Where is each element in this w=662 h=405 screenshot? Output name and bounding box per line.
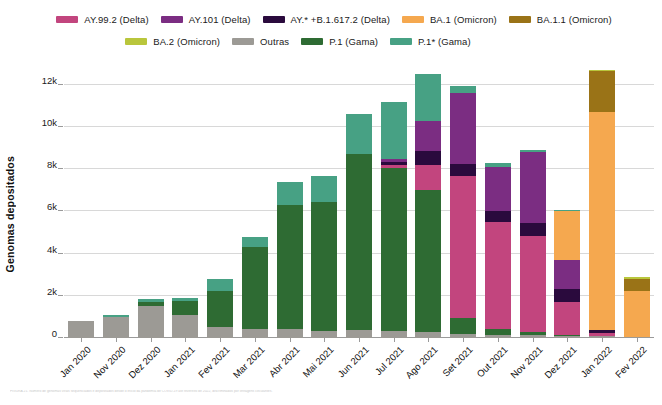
x-tick-mark bbox=[255, 338, 256, 342]
bar-segment bbox=[138, 305, 164, 338]
legend-item-p1star-gama[interactable]: P.1* (Gama) bbox=[390, 36, 471, 47]
legend-swatch-ba2-omicron bbox=[125, 38, 147, 45]
legend-swatch-ba1-omicron bbox=[402, 16, 424, 23]
legend-swatch-ba11-omicron bbox=[509, 16, 531, 23]
bar-mar-2021[interactable] bbox=[242, 237, 268, 338]
plot-area: Genomas depositados 02k4k6k8k10k12k Jan … bbox=[0, 56, 662, 346]
legend-label-ba2-omicron: BA.2 (Omicron) bbox=[153, 36, 220, 47]
bar-segment bbox=[520, 151, 546, 224]
y-tick-mark-8k bbox=[58, 168, 63, 169]
bar-segment bbox=[485, 166, 511, 211]
bar-nov-2021[interactable] bbox=[520, 150, 546, 338]
y-tick-label-12k: 12k bbox=[42, 74, 57, 85]
x-tick-mark bbox=[463, 338, 464, 342]
legend-swatch-outras bbox=[232, 38, 254, 45]
legend-label-ba11-omicron: BA.1.1 (Omicron) bbox=[537, 14, 612, 25]
bar-segment bbox=[172, 300, 198, 315]
bar-jun-2021[interactable] bbox=[346, 114, 372, 338]
legend-item-ay101-delta[interactable]: AY.101 (Delta) bbox=[161, 14, 251, 25]
x-tick-mark bbox=[220, 338, 221, 342]
bar-segment bbox=[485, 162, 511, 167]
legend-item-ba2-omicron[interactable]: BA.2 (Omicron) bbox=[125, 36, 220, 47]
bar-segment bbox=[103, 314, 129, 318]
x-axis: Jan 2020Nov 2020Dez 2020Jan 2021Fev 2021… bbox=[64, 338, 654, 398]
x-tick-mark bbox=[185, 338, 186, 342]
bar-segment bbox=[485, 221, 511, 329]
bar-segment bbox=[554, 259, 580, 290]
bar-segment bbox=[485, 210, 511, 222]
bar-segment bbox=[381, 101, 407, 159]
bar-segment bbox=[520, 222, 546, 236]
legend-item-p1-gama[interactable]: P.1 (Gama) bbox=[301, 36, 378, 47]
bar-jul-2021[interactable] bbox=[381, 102, 407, 338]
bar-segment bbox=[242, 328, 268, 338]
legend-item-ay-b16172-delta[interactable]: AY.* +B.1.617.2 (Delta) bbox=[263, 14, 390, 25]
bar-segment bbox=[589, 70, 615, 112]
bar-ago-2021[interactable] bbox=[415, 73, 441, 338]
bar-segment bbox=[277, 328, 303, 338]
bar-segment bbox=[485, 328, 511, 336]
bar-segment bbox=[172, 297, 198, 301]
x-tick-mark bbox=[428, 338, 429, 342]
bar-dez-2020[interactable] bbox=[138, 299, 164, 338]
bar-segment bbox=[450, 163, 476, 177]
figure-caption: FIGURA 21. Número de genomas virais sequ… bbox=[10, 390, 655, 394]
y-tick-label-2k: 2k bbox=[47, 285, 57, 296]
legend-label-outras: Outras bbox=[260, 36, 289, 47]
bar-segment bbox=[450, 317, 476, 335]
bar-segment bbox=[311, 201, 337, 331]
x-tick-mark bbox=[324, 338, 325, 342]
bar-jan-2022[interactable] bbox=[589, 70, 615, 338]
bar-set-2021[interactable] bbox=[450, 86, 476, 338]
y-tick-mark-2k bbox=[58, 295, 63, 296]
legend-label-p1-gama: P.1 (Gama) bbox=[329, 36, 378, 47]
bar-segment bbox=[242, 236, 268, 248]
x-tick-mark bbox=[637, 338, 638, 342]
bar-segment bbox=[311, 175, 337, 202]
bar-segment bbox=[554, 210, 580, 260]
legend-item-ay992-delta[interactable]: AY.99.2 (Delta) bbox=[56, 14, 149, 25]
x-tick-mark bbox=[290, 338, 291, 342]
bar-segment bbox=[415, 120, 441, 151]
bar-abr-2021[interactable] bbox=[277, 182, 303, 338]
bar-segment bbox=[520, 235, 546, 332]
legend-item-outras[interactable]: Outras bbox=[232, 36, 289, 47]
bar-jan-2020[interactable] bbox=[68, 321, 94, 338]
bar-segment bbox=[554, 209, 580, 211]
legend-item-ba1-omicron[interactable]: BA.1 (Omicron) bbox=[402, 14, 497, 25]
bar-dez-2021[interactable] bbox=[554, 210, 580, 338]
bar-segment bbox=[207, 290, 233, 327]
bar-nov-2020[interactable] bbox=[103, 315, 129, 338]
y-tick-label-8k: 8k bbox=[47, 159, 57, 170]
bar-fev-2022[interactable] bbox=[624, 278, 650, 338]
bar-segment bbox=[311, 330, 337, 338]
bar-segment bbox=[554, 288, 580, 302]
bar-segment bbox=[242, 246, 268, 329]
bar-segment bbox=[624, 276, 650, 278]
bar-segment bbox=[277, 181, 303, 205]
bar-segment bbox=[381, 167, 407, 332]
bar-segment bbox=[520, 149, 546, 151]
bar-mai-2021[interactable] bbox=[311, 176, 337, 338]
bar-segment bbox=[624, 278, 650, 291]
legend-swatch-p1star-gama bbox=[390, 38, 412, 45]
y-tick-label-6k: 6k bbox=[47, 201, 57, 212]
bar-out-2021[interactable] bbox=[485, 163, 511, 338]
legend-label-ba1-omicron: BA.1 (Omicron) bbox=[430, 14, 497, 25]
legend-item-ba11-omicron[interactable]: BA.1.1 (Omicron) bbox=[509, 14, 612, 25]
bar-segment bbox=[346, 113, 372, 154]
bar-jan-2021[interactable] bbox=[172, 298, 198, 338]
bar-segment bbox=[381, 330, 407, 338]
bar-segment bbox=[415, 189, 441, 333]
y-tick-mark-10k bbox=[58, 126, 63, 127]
bar-segment bbox=[207, 278, 233, 291]
legend-swatch-ay992-delta bbox=[56, 16, 78, 23]
x-tick-mark bbox=[602, 338, 603, 342]
bar-fev-2021[interactable] bbox=[207, 279, 233, 338]
y-tick-label-10k: 10k bbox=[42, 117, 57, 128]
legend-label-ay-b16172-delta: AY.* +B.1.617.2 (Delta) bbox=[291, 14, 390, 25]
legend-label-ay992-delta: AY.99.2 (Delta) bbox=[84, 14, 149, 25]
legend-swatch-ay101-delta bbox=[161, 16, 183, 23]
legend-label-p1star-gama: P.1* (Gama) bbox=[418, 36, 471, 47]
bar-segment bbox=[415, 164, 441, 190]
